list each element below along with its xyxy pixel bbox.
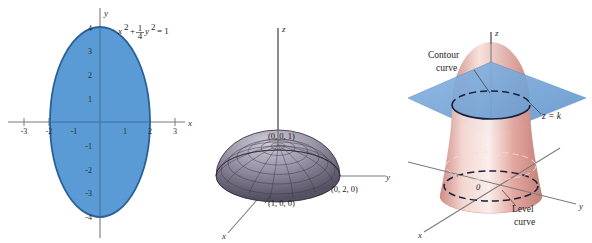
equation-x-exponent: 2 <box>124 22 129 32</box>
y-axis-label: y <box>578 201 583 211</box>
figure-strip: -3 -2 -1 1 2 3 4 3 2 1 -1 -2 -3 -4 x y x… <box>0 0 592 243</box>
point-label-1-0-0: (1, 0, 0) <box>268 198 295 208</box>
x-axis-label: x <box>221 231 226 241</box>
y-tick-label-neg3: -3 <box>85 189 92 198</box>
y-tick-label-neg2: -2 <box>85 166 92 175</box>
contour-curve-label-line2: curve <box>436 63 457 73</box>
plane-level-label: z = k <box>541 111 562 121</box>
figure-panel-ellipsoid-dome: z y x (0, 0, 1) (1, 0, 0) (0, 2, 0) <box>196 0 396 243</box>
ellipse-plot-svg: -3 -2 -1 1 2 3 4 3 2 1 -1 -2 -3 -4 x y x… <box>0 0 200 243</box>
y-axis-label: y <box>103 8 108 18</box>
ellipsoid-plot-svg: z y x (0, 0, 1) (1, 0, 0) (0, 2, 0) <box>196 0 396 243</box>
point-label-0-2-0: (0, 2, 0) <box>331 184 358 194</box>
point-label-0-0-1: (0, 0, 1) <box>268 131 295 141</box>
x-tick-label-neg1: -1 <box>71 127 78 136</box>
x-tick-label-3: 3 <box>173 127 177 136</box>
y-tick-label-neg1: -1 <box>85 142 92 151</box>
x-tick-label-neg2: -2 <box>46 127 53 136</box>
figure-panel-ellipse-region: -3 -2 -1 1 2 3 4 3 2 1 -1 -2 -3 -4 x y x… <box>0 0 200 243</box>
figure-panel-level-contour: 0 z y x Contour curve z = k Level curve <box>390 0 592 243</box>
x-tick-label-neg3: -3 <box>21 127 28 136</box>
y-tick-label-3: 3 <box>88 47 92 56</box>
y-tick-label-4: 4 <box>88 24 92 33</box>
equation-equals-one: = 1 <box>157 26 169 36</box>
x-tick-label-2: 2 <box>148 127 152 136</box>
z-axis-label: z <box>281 24 286 34</box>
equation-plus-sign: + <box>130 26 135 36</box>
equation-fraction-denominator: 4 <box>138 31 143 41</box>
equation-x: x <box>117 26 122 36</box>
contour-curve-label-line1: Contour <box>428 50 460 60</box>
equation-y: y <box>144 26 149 36</box>
y-tick-label-2: 2 <box>88 71 92 80</box>
y-tick-label-neg4: -4 <box>85 213 92 222</box>
cone-plot-svg: 0 z y x Contour curve z = k Level curve <box>390 0 592 243</box>
level-curve-label-line2: curve <box>514 217 535 227</box>
equation-y-exponent: 2 <box>151 22 156 32</box>
x-axis-label: x <box>417 230 422 240</box>
y-tick-label-1: 1 <box>88 95 92 104</box>
x-axis-label: x <box>187 118 192 128</box>
surface-front-of-plane <box>440 105 542 213</box>
z-axis-label: z <box>494 28 499 38</box>
x-tick-label-1: 1 <box>123 127 127 136</box>
